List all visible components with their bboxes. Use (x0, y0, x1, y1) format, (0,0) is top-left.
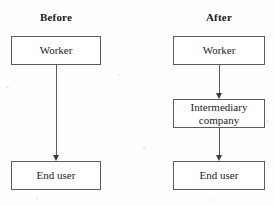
node-label-block: Intermediary company (191, 101, 248, 126)
scan-speck (118, 74, 120, 76)
node-after-intermediary: Intermediary company (173, 99, 265, 128)
node-label: End user (37, 169, 76, 182)
arrow-shaft (219, 65, 220, 93)
arrow-shaft (56, 65, 57, 155)
scan-speck (36, 198, 38, 200)
node-before-worker: Worker (11, 36, 101, 65)
arrow-shaft (219, 128, 220, 155)
scan-speck (266, 120, 269, 123)
diagram-canvas: Before After Worker End user Worker Inte… (0, 0, 274, 206)
node-label: Worker (203, 44, 236, 57)
node-label: End user (200, 169, 239, 182)
node-after-enduser: End user (173, 161, 265, 190)
node-label-line1: Intermediary (191, 101, 248, 114)
node-label-line2: company (191, 114, 248, 127)
scan-speck (6, 86, 9, 88)
column-title-before: Before (11, 11, 101, 23)
scan-speck (210, 199, 212, 201)
node-before-enduser: End user (11, 161, 101, 190)
column-title-after: After (173, 11, 265, 23)
node-after-worker: Worker (173, 36, 265, 65)
scan-speck (143, 146, 146, 149)
node-label: Worker (40, 44, 73, 57)
